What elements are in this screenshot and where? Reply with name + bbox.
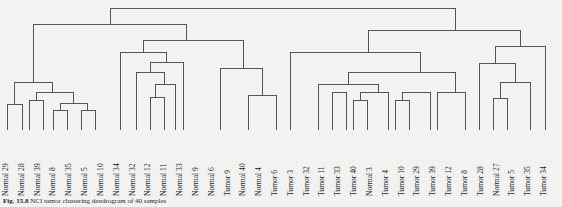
leaf-label: Normal 39 (34, 163, 42, 196)
leaf-label: Normal 10 (97, 163, 105, 196)
leaf-label: Tumor 11 (318, 166, 326, 196)
dendrogram-figure: Normal 29Normal 28Normal 39Normal 8Norma… (0, 0, 562, 207)
leaf-label: Normal 4 (255, 167, 263, 196)
leaf-label: Tumor 28 (477, 166, 485, 196)
leaf-label: Normal 8 (49, 167, 57, 196)
leaf-label: Normal 27 (493, 163, 501, 196)
leaf-label: Tumor 8 (461, 170, 469, 196)
leaf-label: Normal 3 (366, 167, 374, 196)
leaf-label: Normal 28 (18, 163, 26, 196)
leaf-label: Tumor 34 (540, 166, 548, 196)
leaf-label: Tumor 4 (382, 170, 390, 196)
leaf-label: Normal 33 (176, 163, 184, 196)
leaf-label: Normal 9 (192, 167, 200, 196)
leaf-label-row: Normal 29Normal 28Normal 39Normal 8Norma… (0, 134, 562, 196)
leaf-label: Normal 5 (81, 167, 89, 196)
leaf-label: Tumor 33 (334, 166, 342, 196)
leaf-label: Tumor 39 (429, 166, 437, 196)
caption-text: NCI tumor clustering dendrogram of 40 sa… (30, 197, 166, 205)
leaf-label: Tumor 40 (350, 166, 358, 196)
figure-caption: Fig. 15.8 NCI tumor clustering dendrogra… (3, 196, 559, 207)
caption-label: Fig. 15.8 (3, 197, 28, 205)
leaf-label: Tumor 35 (524, 166, 532, 196)
leaf-label: Normal 11 (160, 164, 168, 196)
leaf-label: Normal 29 (2, 163, 10, 196)
leaf-label: Normal 40 (239, 163, 247, 196)
leaf-label: Normal 12 (144, 163, 152, 196)
leaf-label: Normal 34 (113, 163, 121, 196)
leaf-label: Normal 6 (208, 167, 216, 196)
leaf-label: Tumor 3 (287, 170, 295, 196)
leaf-label: Tumor 5 (508, 170, 516, 196)
leaf-label: Normal 32 (129, 163, 137, 196)
leaf-label: Tumor 12 (445, 166, 453, 196)
leaf-label: Tumor 9 (224, 170, 232, 196)
leaf-label: Tumor 32 (303, 166, 311, 196)
leaf-label: Tumor 6 (271, 170, 279, 196)
leaf-label: Tumor 29 (413, 166, 421, 196)
leaf-label: Tumor 10 (398, 166, 406, 196)
leaf-label: Normal 35 (65, 163, 73, 196)
dendrogram-links (7, 8, 545, 130)
dendrogram-tree (0, 0, 562, 140)
